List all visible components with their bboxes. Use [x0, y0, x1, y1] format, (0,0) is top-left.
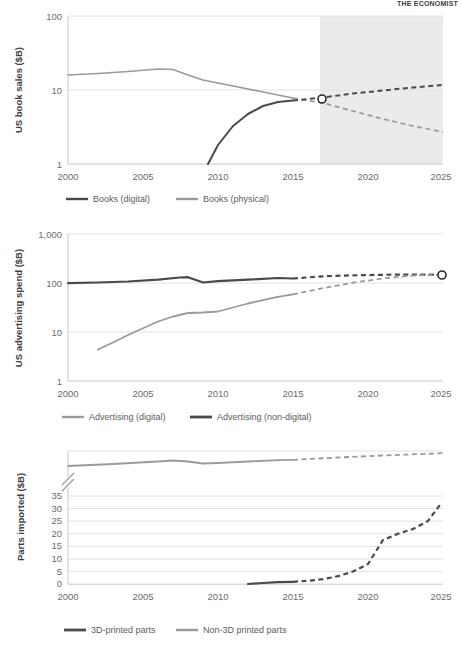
c3-ytick-15: 15	[51, 540, 62, 551]
c2-y-axis-title: US advertising spend ($B)	[13, 249, 24, 367]
c3-ytick-20: 20	[51, 528, 62, 539]
chart-parts-imported: 35 30 25 20 15 10 5 0 Parts imported ($B…	[0, 437, 462, 654]
chart-parts-imported-svg: 35 30 25 20 15 10 5 0 Parts imported ($B…	[0, 437, 462, 654]
c3-legend-label-non3d: Non-3D printed parts	[203, 625, 287, 635]
c1-y-axis-title: US book sales ($B)	[13, 47, 24, 133]
c3-ytick-0: 0	[57, 578, 62, 589]
c3-ytick-35: 35	[51, 490, 62, 501]
chart-book-sales: 100 10 1 US book sales ($B) 2000 2005 20…	[0, 0, 462, 215]
gridlines	[68, 234, 443, 332]
c1-xtick-2005: 2005	[132, 171, 153, 182]
c2-xtick-2025: 2025	[430, 388, 451, 399]
c1-xtick-2020: 2020	[357, 171, 378, 182]
c3-xtick-2015: 2015	[282, 591, 303, 602]
series-books-physical-actual	[68, 69, 293, 98]
crossover-marker	[318, 95, 326, 103]
series-books-digital-actual	[208, 101, 293, 165]
c2-xtick-2020: 2020	[357, 388, 378, 399]
c3-ytick-10: 10	[51, 553, 62, 564]
c3-ytick-30: 30	[51, 503, 62, 514]
c2-ytick-10: 10	[51, 327, 62, 338]
series-advertising-nondigital-forecast	[293, 275, 441, 279]
chart-advertising-spend: 1,000 100 10 1 US advertising spend ($B)…	[0, 218, 462, 433]
chart-advertising-spend-svg: 1,000 100 10 1 US advertising spend ($B)…	[0, 218, 462, 433]
c1-xtick-2025: 2025	[430, 171, 451, 182]
c3-xtick-2010: 2010	[207, 591, 228, 602]
c2-ytick-1000: 1,000	[38, 229, 62, 240]
series-advertising-nondigital-actual	[68, 277, 293, 283]
c3-legend: 3D-printed parts Non-3D printed parts	[64, 625, 287, 635]
crossover-marker	[438, 271, 446, 279]
c2-xtick-2000: 2000	[57, 388, 78, 399]
series-3d-forecast	[293, 504, 441, 582]
gridlines-lower	[68, 496, 443, 572]
c3-legend-label-3d: 3D-printed parts	[91, 625, 156, 635]
c1-xtick-2010: 2010	[207, 171, 228, 182]
c3-xtick-2005: 2005	[132, 591, 153, 602]
c3-xtick-2000: 2000	[57, 591, 78, 602]
c2-ytick-1: 1	[57, 376, 62, 387]
c3-ytick-25: 25	[51, 515, 62, 526]
series-3d-actual	[248, 582, 293, 584]
c1-legend-label-digital: Books (digital)	[93, 194, 150, 204]
c2-legend-label-nondigital: Advertising (non-digital)	[217, 412, 312, 422]
c1-ytick-1: 1	[57, 159, 62, 170]
c2-xtick-2005: 2005	[132, 388, 153, 399]
series-non3d-actual	[68, 460, 293, 466]
series-advertising-digital-actual	[98, 294, 293, 349]
c2-legend-label-digital: Advertising (digital)	[89, 412, 166, 422]
series-non3d-forecast	[293, 453, 443, 460]
c3-xtick-2025: 2025	[430, 591, 451, 602]
c1-ytick-100: 100	[46, 11, 62, 22]
series-advertising-digital-forecast	[293, 275, 441, 295]
c3-xtick-2020: 2020	[357, 591, 378, 602]
c1-legend-label-physical: Books (physical)	[203, 194, 269, 204]
c1-xtick-2015: 2015	[282, 171, 303, 182]
c2-xtick-2015: 2015	[282, 388, 303, 399]
c1-legend: Books (digital) Books (physical)	[66, 194, 269, 204]
chart-book-sales-svg: 100 10 1 US book sales ($B) 2000 2005 20…	[0, 0, 462, 215]
c3-ytick-5: 5	[57, 566, 62, 577]
c2-xtick-2010: 2010	[207, 388, 228, 399]
c2-ytick-100: 100	[46, 278, 62, 289]
c1-ytick-10: 10	[51, 85, 62, 96]
c2-legend: Advertising (digital) Advertising (non-d…	[62, 412, 312, 433]
c3-y-axis-title: Parts imported ($B)	[15, 473, 26, 561]
c1-xtick-2000: 2000	[57, 171, 78, 182]
